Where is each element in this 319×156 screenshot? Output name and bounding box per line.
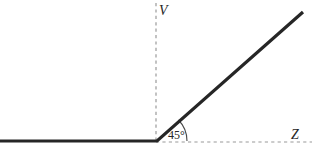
vertical-axis-label: V — [159, 3, 169, 18]
angle-label: 45° — [168, 128, 185, 142]
diagram-canvas: V Z 45° — [0, 0, 319, 156]
horizontal-axis-label: Z — [291, 127, 299, 142]
figure-container: V Z 45° — [0, 0, 319, 156]
profile-polyline — [0, 12, 303, 141]
